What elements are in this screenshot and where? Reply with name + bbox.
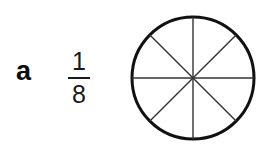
sector-divider-group (132, 17, 254, 139)
fraction-numerator: 1 (72, 48, 86, 75)
fraction-denominator: 8 (72, 81, 86, 108)
circle-fraction-diagram (126, 3, 260, 153)
fraction-bar (68, 77, 90, 79)
fraction-one-eighth: 1 8 (63, 45, 95, 111)
worksheet-item: a 1 8 (0, 0, 280, 155)
item-label: a (16, 56, 42, 86)
